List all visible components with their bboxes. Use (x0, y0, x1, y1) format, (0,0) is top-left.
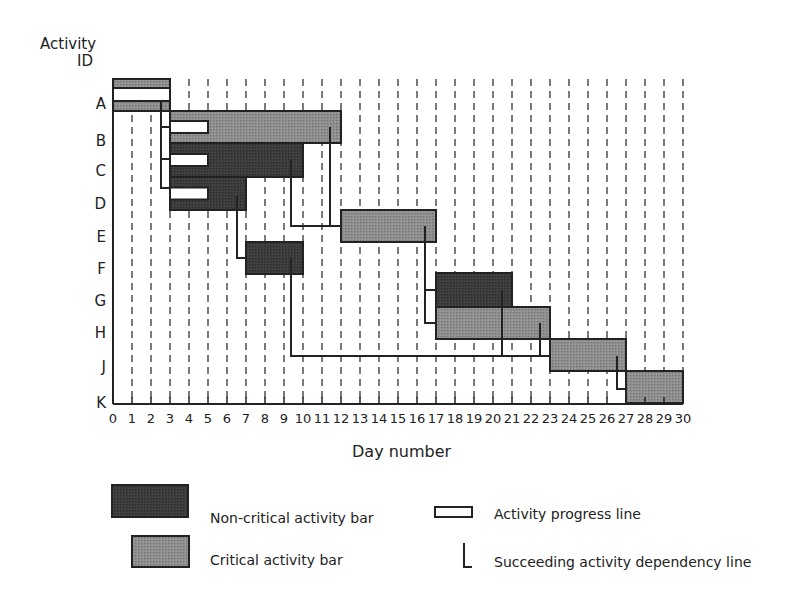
row-label-B: B (86, 133, 106, 150)
legend-critical-swatch (132, 536, 189, 567)
row-label-D: D (86, 196, 106, 213)
row-label-F: F (86, 261, 106, 278)
legend-noncritical-swatch (112, 485, 188, 517)
row-label-A: A (86, 96, 106, 113)
progress-line-C (170, 154, 208, 166)
legend-progress-swatch (435, 507, 472, 517)
row-label-E: E (86, 229, 106, 246)
row-label-C: C (86, 163, 106, 180)
activity-bar-F (246, 242, 303, 274)
y-axis-title-line1: Activity (40, 36, 115, 53)
y-axis-title-line2: ID (40, 53, 115, 70)
legend-dependency-swatch (464, 543, 472, 567)
y-axis-title: Activity ID (40, 36, 115, 70)
legend-noncritical-label: Non-critical activity bar (210, 510, 374, 526)
legend-dependency-label: Succeeding activity dependency line (494, 554, 751, 570)
progress-line-B (170, 121, 208, 133)
legend-progress-label: Activity progress line (494, 506, 641, 522)
activity-bar-E (341, 210, 436, 242)
x-tick-label: 30 (671, 410, 695, 427)
row-label-J: J (86, 359, 106, 376)
x-axis-title: Day number (352, 442, 451, 461)
dependency-line (161, 101, 170, 188)
activity-bar-H (436, 307, 550, 339)
progress-line-D (170, 188, 208, 200)
row-label-G: G (86, 293, 106, 310)
gantt-chart (0, 0, 805, 606)
row-label-H: H (86, 325, 106, 342)
activity-bar-G (436, 273, 512, 307)
activity-bar-K (626, 371, 683, 403)
activity-bar-J (550, 339, 626, 371)
progress-line-A (113, 88, 170, 101)
legend-critical-label: Critical activity bar (210, 552, 343, 568)
